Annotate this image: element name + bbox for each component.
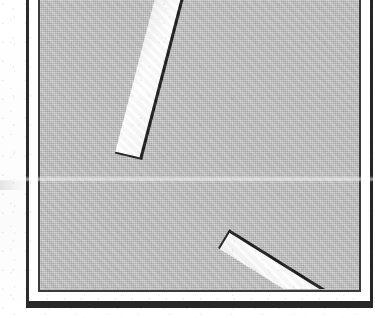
margin-ghost-mark [0,180,26,190]
upper-bar-shape [115,0,184,160]
gray-halftone-field [40,0,359,289]
lower-bar-shape [218,229,358,289]
frame-drop-shadow [26,301,373,308]
scanned-figure-page [0,0,375,318]
